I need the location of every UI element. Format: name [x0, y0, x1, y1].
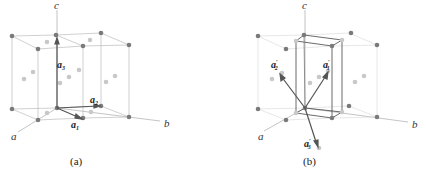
a-axis-label: a — [258, 130, 264, 142]
basis-vectors-a — [55, 38, 100, 119]
panel-b: c b a a′2 a′1 a′3 (b) — [256, 0, 418, 168]
c-axis-label: c — [54, 0, 59, 11]
crystal-lattice-figure: c b a a3 a2 a1 (a) — [0, 0, 426, 176]
vector-a1-label: a1 — [71, 119, 79, 131]
caption-a: (a) — [70, 155, 83, 168]
vector-a2-label: a2 — [90, 94, 98, 106]
vector-a3-label: a3 — [57, 59, 65, 71]
caption-b: (b) — [303, 155, 316, 168]
vector-a3-prime-label: a′3 — [304, 138, 311, 150]
a-axis-label: a — [11, 130, 17, 142]
b-axis-label: b — [412, 118, 418, 130]
panel-a: c b a a3 a2 a1 (a) — [10, 0, 170, 168]
c-axis-label: c — [302, 0, 307, 11]
vector-a2-prime-label: a′2 — [271, 59, 278, 71]
b-axis-label: b — [164, 117, 170, 129]
b-axis — [305, 108, 408, 122]
vector-a1-prime-label: a′1 — [323, 59, 330, 71]
interior-atoms — [270, 38, 367, 151]
